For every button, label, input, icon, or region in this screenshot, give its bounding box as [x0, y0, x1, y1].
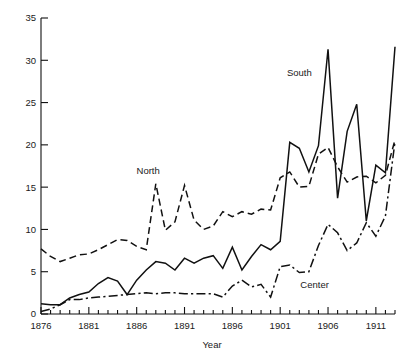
x-tick-label: 1901	[270, 320, 291, 331]
x-tick-label: 1876	[30, 320, 51, 331]
x-tick-label: 1896	[222, 320, 243, 331]
y-tick-label: 15	[25, 182, 36, 193]
x-tick-label: 1906	[317, 320, 338, 331]
y-tick-label: 0	[31, 308, 36, 319]
x-tick-label: 1881	[78, 320, 99, 331]
y-tick-label: 5	[31, 266, 36, 277]
y-tick-label: 35	[25, 12, 36, 23]
x-tick-label: 1891	[174, 320, 195, 331]
chart-canvas: 05101520253035 1876188118861891189619011…	[0, 0, 409, 361]
x-tick-label: 1886	[126, 320, 147, 331]
series-line-south	[41, 47, 395, 305]
line-chart: 05101520253035 1876188118861891189619011…	[0, 0, 409, 361]
x-axis: 18761881188618911896190119061911	[30, 307, 395, 331]
series-label-center: Center	[300, 279, 329, 290]
series-label-north: North	[137, 165, 160, 176]
series-line-north	[41, 140, 395, 262]
y-tick-label: 20	[25, 139, 36, 150]
x-tick-label: 1911	[366, 320, 386, 331]
y-tick-label: 30	[25, 55, 36, 66]
x-axis-title: Year	[202, 339, 221, 350]
y-axis: 05101520253035	[25, 12, 48, 319]
data-series-group	[41, 47, 395, 312]
series-annotations: NorthSouthCenter	[137, 67, 329, 290]
series-label-south: South	[287, 67, 312, 78]
y-tick-label: 25	[25, 97, 36, 108]
y-tick-label: 10	[25, 224, 36, 235]
